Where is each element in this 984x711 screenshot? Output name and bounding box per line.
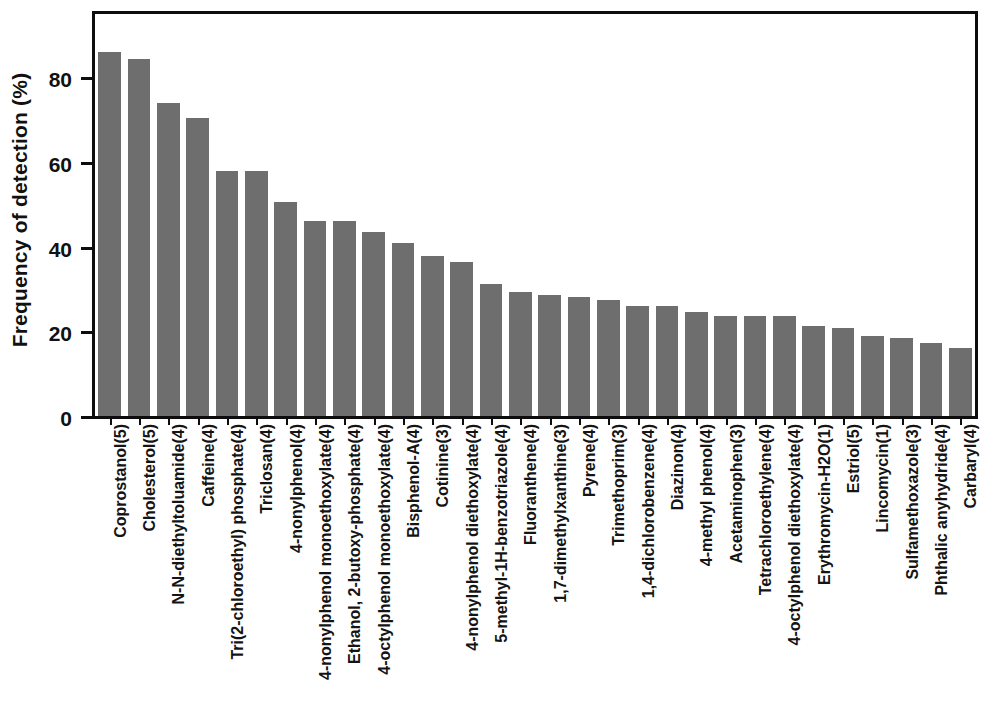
bar: [626, 306, 649, 416]
plot-frame: 020406080: [92, 11, 978, 419]
bar: [450, 262, 473, 416]
bar: [216, 171, 239, 416]
bar: [480, 284, 503, 416]
y-tick-label-80: 80: [49, 68, 72, 92]
x-axis-label: Carbaryl(4): [963, 424, 979, 508]
x-axis-label: 4-nonylphenol(4): [289, 424, 305, 553]
bar: [157, 103, 180, 416]
x-axis-label: Acetaminophen(3): [729, 424, 745, 564]
x-axis-category-labels: Coprostanol(5)Cholesterol(5)N-N-diethylt…: [92, 424, 978, 711]
bar: [568, 297, 591, 416]
x-axis-label: 1,4-dichlorobenzene(4): [641, 424, 657, 598]
x-axis-label: Estriol(5): [846, 424, 862, 493]
x-axis-label: Cotinine(3): [435, 424, 451, 508]
bar: [304, 221, 327, 416]
x-axis-label: Tri(2-chloroethyl) phosphate(4): [230, 424, 246, 660]
bar: [245, 171, 268, 416]
y-tick-20: 20: [81, 331, 95, 334]
bar: [186, 118, 209, 416]
y-tick-60: 60: [81, 162, 95, 165]
y-tick-label-0: 0: [60, 407, 72, 431]
x-axis-label: Fluoranthene(4): [523, 424, 539, 545]
x-axis-label: 4-octylphenol monoethoxylate(4): [377, 424, 393, 675]
bar: [509, 292, 532, 416]
x-axis-label: 4-nonylphenol diethoxylate(4): [465, 424, 481, 651]
plot-area: 020406080: [95, 14, 975, 416]
y-tick-40: 40: [81, 247, 95, 250]
bar: [744, 316, 767, 416]
x-axis-label: Tetrachloroethylene(4): [758, 424, 774, 595]
y-tick-label-20: 20: [49, 322, 72, 346]
y-axis-title: Frequency of detection (%): [0, 0, 40, 420]
bar: [128, 59, 151, 416]
bar: [832, 328, 855, 416]
frequency-of-detection-bar-chart: Frequency of detection (%) 020406080 Cop…: [0, 0, 984, 711]
bar: [920, 343, 943, 416]
bar: [802, 326, 825, 416]
bar: [421, 256, 444, 416]
bar: [949, 348, 972, 416]
x-axis-label: Caffeine(4): [201, 424, 217, 507]
x-axis-label: Erythromycin-H2O(1): [817, 424, 833, 585]
bar: [538, 295, 561, 416]
x-axis-label: Diazinon(4): [670, 424, 686, 510]
x-axis-label: Phthalic anyhydride(4): [934, 424, 950, 596]
x-axis-label: 4-nonylphenol monoethoxylate(4): [318, 424, 334, 680]
y-tick-label-40: 40: [49, 238, 72, 262]
bar: [362, 232, 385, 416]
x-axis-label: Triclosan(4): [259, 424, 275, 514]
x-axis-label: 5-methyl-1H-benzotriazole(4): [494, 424, 510, 643]
bar: [861, 336, 884, 416]
y-tick-label-60: 60: [49, 153, 72, 177]
x-axis-label: 4-methyl phenol(4): [699, 424, 715, 566]
bar: [773, 316, 796, 416]
x-axis-label: Lincomycin(1): [875, 424, 891, 532]
x-axis-label: Bisphenol-A(4): [406, 424, 422, 538]
x-axis-label: 1,7-dimethylxanthine(3): [553, 424, 569, 603]
y-tick-80: 80: [81, 77, 95, 80]
bar: [890, 338, 913, 416]
bar: [98, 52, 121, 416]
x-axis-label: 4-octylphenol diethoxylate(4): [787, 424, 803, 645]
x-axis-label: Coprostanol(5): [113, 424, 129, 538]
x-axis-label: Sulfamethoxazole(3): [905, 424, 921, 580]
bar: [274, 202, 297, 416]
x-axis-label: Ethanol, 2-butoxy-phosphate(4): [347, 424, 363, 664]
bar: [392, 243, 415, 416]
y-tick-0: 0: [81, 416, 95, 419]
x-axis-label: Cholesterol(5): [142, 424, 158, 532]
bar: [333, 221, 356, 416]
bar-series: [95, 14, 975, 416]
bar: [714, 316, 737, 416]
y-axis-title-text: Frequency of detection (%): [8, 73, 32, 348]
x-axis-label: Trimethoprim(3): [611, 424, 627, 546]
x-axis-label: Pyrene(4): [582, 424, 598, 497]
bar: [656, 306, 679, 416]
bar: [597, 300, 620, 416]
bar: [685, 312, 708, 416]
x-axis-label: N-N-diethyltoluamide(4): [171, 424, 187, 604]
